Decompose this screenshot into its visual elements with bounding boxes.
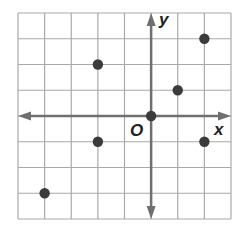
x-axis-label: x [213, 120, 225, 139]
arrow-down-icon [147, 206, 156, 219]
arrow-up-icon [147, 13, 156, 26]
arrow-left-icon [18, 112, 31, 121]
data-point [93, 59, 103, 69]
y-axis-label: y [158, 10, 170, 29]
data-point [173, 85, 183, 95]
data-point [93, 137, 103, 147]
data-point [39, 188, 49, 198]
origin-label: O [130, 121, 143, 140]
data-point [146, 111, 156, 121]
data-point [199, 34, 209, 44]
coordinate-plane: y x O [0, 0, 237, 228]
data-point [199, 137, 209, 147]
